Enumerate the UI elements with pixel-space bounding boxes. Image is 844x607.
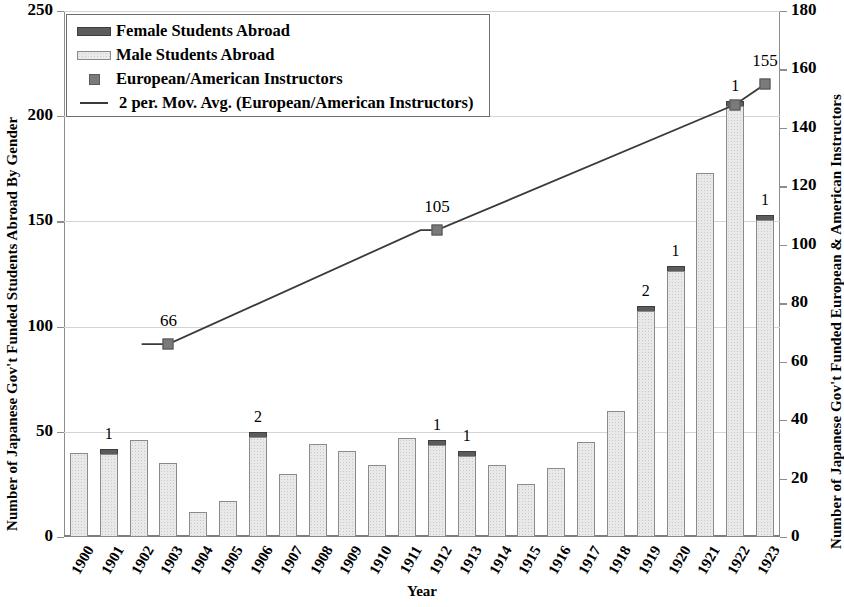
- bar-segment-male: [338, 451, 356, 537]
- bar-segment-male: [607, 411, 625, 537]
- y-tick-label-left: 150: [28, 210, 54, 230]
- bar-1923[interactable]: [756, 215, 774, 537]
- chart-legend: Female Students AbroadMale Students Abro…: [66, 14, 490, 117]
- bar-1920[interactable]: [667, 266, 685, 537]
- bar-segment-male: [309, 444, 327, 537]
- instructor-value-label: 66: [160, 311, 177, 331]
- x-axis-title: Year: [0, 583, 844, 600]
- y-tick-label-right: 20: [791, 468, 808, 488]
- y-tick-left: [57, 116, 64, 117]
- y-tick-label-right: 0: [791, 526, 800, 546]
- y-tick-right: [780, 479, 787, 480]
- bar-segment-male: [517, 484, 535, 537]
- y-axis-title-left: Number of Japanese Gov't Funded Students…: [4, 117, 21, 531]
- legend-item-1[interactable]: Male Students Abroad: [67, 43, 489, 67]
- bar-1908[interactable]: [309, 444, 327, 537]
- bar-segment-male: [189, 512, 207, 537]
- y-tick-label-right: 160: [791, 58, 817, 78]
- y-tick-left: [57, 221, 64, 222]
- bar-1902[interactable]: [130, 440, 148, 537]
- y-tick-right: [780, 420, 787, 421]
- bar-1903[interactable]: [159, 463, 177, 537]
- bar-segment-male: [547, 468, 565, 537]
- y-tick-label-right: 140: [791, 117, 817, 137]
- bar-segment-male: [100, 454, 118, 537]
- legend-item-0[interactable]: Female Students Abroad: [67, 19, 489, 43]
- y-tick-left: [57, 11, 64, 12]
- bar-segment-male: [637, 311, 655, 537]
- y-tick-right: [780, 303, 787, 304]
- y-tick-label-right: 100: [791, 234, 817, 254]
- y-tick-left: [57, 432, 64, 433]
- bar-1906[interactable]: [249, 432, 267, 537]
- bar-1900[interactable]: [70, 453, 88, 537]
- bar-1904[interactable]: [189, 512, 207, 537]
- bar-segment-male: [577, 442, 595, 537]
- legend-label: European/American Instructors: [116, 69, 343, 89]
- bar-segment-male: [368, 465, 386, 537]
- bar-segment-male: [696, 173, 714, 537]
- bar-segment-male: [756, 220, 774, 537]
- bar-1914[interactable]: [488, 465, 506, 537]
- instructor-marker-1903[interactable]: [163, 339, 174, 350]
- y-tick-label-right: 120: [791, 175, 817, 195]
- bar-1918[interactable]: [607, 411, 625, 537]
- y-tick-right: [780, 69, 787, 70]
- y-tick-label-right: 60: [791, 351, 808, 371]
- y-tick-right: [780, 186, 787, 187]
- y-tick-right: [780, 11, 787, 12]
- bar-1909[interactable]: [338, 451, 356, 537]
- y-tick-right: [780, 128, 787, 129]
- legend-item-3[interactable]: 2 per. Mov. Avg. (European/American Inst…: [67, 91, 489, 115]
- y-tick-label-left: 250: [28, 0, 54, 20]
- bar-segment-male: [70, 453, 88, 537]
- y-tick-label-right: 40: [791, 409, 808, 429]
- female-swatch: [77, 27, 111, 36]
- legend-label: 2 per. Mov. Avg. (European/American Inst…: [119, 93, 473, 113]
- bar-1916[interactable]: [547, 468, 565, 537]
- y-tick-label-right: 180: [791, 0, 817, 20]
- bar-value-label: 1: [433, 416, 441, 434]
- bar-value-label: 1: [105, 425, 113, 443]
- instructor-value-label: 105: [424, 197, 450, 217]
- bar-value-label: 1: [761, 191, 769, 209]
- bar-1901[interactable]: [100, 449, 118, 537]
- bar-1911[interactable]: [398, 438, 416, 537]
- bar-segment-male: [667, 271, 685, 537]
- y-tick-left: [57, 327, 64, 328]
- instructor-marker-1922[interactable]: [730, 99, 741, 110]
- bar-1922[interactable]: [726, 101, 744, 537]
- bar-1913[interactable]: [458, 451, 476, 537]
- y-tick-right: [780, 362, 787, 363]
- bar-segment-male: [428, 445, 446, 537]
- bar-1910[interactable]: [368, 465, 386, 537]
- y-tick-right: [780, 537, 787, 538]
- bar-segment-male: [219, 501, 237, 537]
- bar-value-label: 2: [254, 408, 262, 426]
- bar-segment-male: [249, 437, 267, 537]
- bar-1905[interactable]: [219, 501, 237, 537]
- bar-segment-male: [398, 438, 416, 537]
- legend-label: Male Students Abroad: [116, 45, 274, 65]
- instructor-marker-1923[interactable]: [760, 79, 771, 90]
- chart-figure: Number of Japanese Gov't Funded Students…: [0, 0, 844, 607]
- bar-value-label: 1: [731, 77, 739, 95]
- bar-segment-male: [488, 465, 506, 537]
- bar-1915[interactable]: [517, 484, 535, 537]
- bar-1907[interactable]: [279, 474, 297, 537]
- bar-1921[interactable]: [696, 173, 714, 537]
- bar-value-label: 1: [672, 242, 680, 260]
- bar-1917[interactable]: [577, 442, 595, 537]
- bar-value-label: 2: [642, 282, 650, 300]
- instructor-marker-1912[interactable]: [431, 225, 442, 236]
- y-tick-label-left: 0: [45, 526, 54, 546]
- y-tick-label-left: 50: [36, 421, 53, 441]
- bar-1912[interactable]: [428, 440, 446, 537]
- y-tick-right: [780, 245, 787, 246]
- legend-item-2[interactable]: European/American Instructors: [67, 67, 489, 91]
- bar-segment-male: [159, 463, 177, 537]
- bar-1919[interactable]: [637, 306, 655, 537]
- y-tick-label-left: 200: [28, 105, 54, 125]
- legend-label: Female Students Abroad: [116, 21, 290, 41]
- instructor-value-label: 155: [752, 51, 778, 71]
